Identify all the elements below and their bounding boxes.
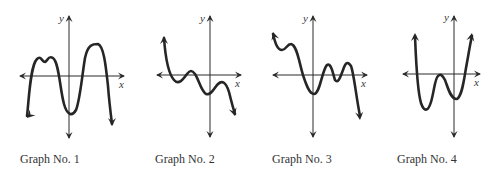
polynomial-curve xyxy=(415,36,472,110)
caption-graph-3: Graph No. 3 xyxy=(272,152,332,167)
y-axis-label: y xyxy=(58,12,64,24)
graph-3: xy xyxy=(271,12,368,138)
y-axis-label: y xyxy=(302,12,308,24)
y-axis-label: y xyxy=(443,11,449,23)
caption-graph-4: Graph No. 4 xyxy=(397,152,457,167)
y-axis-label: y xyxy=(199,12,205,24)
graph-1: xy xyxy=(19,12,125,139)
caption-graph-1: Graph No. 1 xyxy=(20,152,80,167)
graph-2: xy xyxy=(156,12,242,138)
x-axis-label: x xyxy=(118,78,124,90)
x-axis-label: x xyxy=(360,77,366,89)
polynomial-curve xyxy=(164,38,235,114)
x-axis-label: x xyxy=(473,76,479,88)
graph-4: xy xyxy=(402,11,481,138)
x-axis-label: x xyxy=(234,77,240,89)
polynomial-graphs-figure: xyxyxyxy xyxy=(0,0,491,172)
caption-graph-2: Graph No. 2 xyxy=(155,152,215,167)
